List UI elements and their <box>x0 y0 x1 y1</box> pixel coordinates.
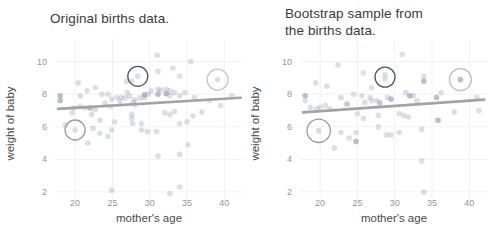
svg-text:30: 30 <box>145 198 155 208</box>
svg-text:4: 4 <box>42 154 47 164</box>
y-axis-ticks: 246810 <box>37 57 47 197</box>
svg-text:35: 35 <box>427 198 437 208</box>
x-axis-ticks: 2025303540 <box>70 198 229 208</box>
svg-text:25: 25 <box>352 198 362 208</box>
svg-text:35: 35 <box>182 198 192 208</box>
svg-text:10: 10 <box>37 57 47 67</box>
svg-text:2: 2 <box>287 187 292 197</box>
y-axis-ticks: 246810 <box>282 57 292 197</box>
svg-text:25: 25 <box>107 198 117 208</box>
grid-lines <box>300 39 488 200</box>
svg-text:6: 6 <box>287 122 292 132</box>
original-data-panel: Original births data. 2025303540246810mo… <box>0 0 245 241</box>
svg-text:2: 2 <box>42 187 47 197</box>
figure-canvas: Original births data. 2025303540246810mo… <box>0 0 491 241</box>
trend-line <box>303 100 484 113</box>
bootstrap-scatter-plot: 2025303540246810mother's ageweight of ba… <box>245 0 491 241</box>
svg-text:40: 40 <box>464 198 474 208</box>
svg-text:8: 8 <box>42 89 47 99</box>
y-axis-label: weight of baby <box>4 86 16 161</box>
svg-text:40: 40 <box>219 198 229 208</box>
x-axis-label: mother's age <box>361 212 427 224</box>
svg-text:20: 20 <box>70 198 80 208</box>
y-axis-label: weight of baby <box>249 86 261 161</box>
svg-text:6: 6 <box>42 122 47 132</box>
points-layer <box>302 52 481 195</box>
svg-text:8: 8 <box>287 89 292 99</box>
bootstrap-sample-panel: Bootstrap sample from the births data. 2… <box>245 0 491 241</box>
svg-text:10: 10 <box>282 57 292 67</box>
original-scatter-plot: 2025303540246810mother's ageweight of ba… <box>0 0 245 241</box>
svg-text:30: 30 <box>390 198 400 208</box>
highlight-circles <box>307 67 471 142</box>
x-axis-ticks: 2025303540 <box>315 198 474 208</box>
x-axis-label: mother's age <box>116 212 182 224</box>
grid-lines <box>55 39 243 200</box>
svg-text:20: 20 <box>315 198 325 208</box>
svg-text:4: 4 <box>287 154 292 164</box>
